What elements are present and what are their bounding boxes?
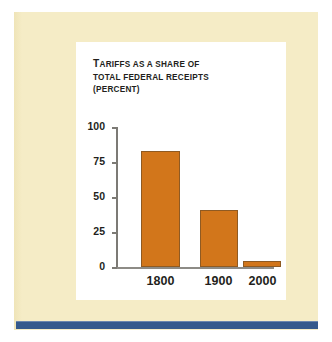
bar-1900[interactable] (200, 210, 238, 267)
chart-title-line-2: TOTAL FEDERAL RECEIPTS (93, 72, 273, 85)
x-axis-line (116, 267, 274, 269)
y-tick-0: 0 (112, 267, 117, 269)
y-tick-label-75: 75 (93, 155, 105, 167)
page-panel: TARIFFS AS A SHARE OF TOTAL FEDERAL RECE… (14, 12, 318, 330)
y-tick-label-25: 25 (93, 225, 105, 237)
y-tick-label-100: 100 (87, 120, 105, 132)
y-tick-label-50: 50 (93, 190, 105, 202)
chart-card: TARIFFS AS A SHARE OF TOTAL FEDERAL RECE… (76, 42, 286, 300)
x-label-2000: 2000 (235, 274, 290, 288)
bar-1800[interactable] (141, 151, 180, 267)
bar-2000[interactable] (243, 261, 281, 267)
chart-title-line-1: TARIFFS AS A SHARE OF (93, 58, 273, 72)
plot-area: 100 75 50 25 0 1800 1900 2000 (116, 127, 274, 267)
chart-title-line-3: (PERCENT) (93, 84, 273, 97)
blue-rule-divider (16, 321, 318, 329)
x-label-1800: 1800 (133, 274, 188, 288)
chart-title-line-1-rest: ARIFFS AS A SHARE OF (99, 60, 199, 69)
chart-title: TARIFFS AS A SHARE OF TOTAL FEDERAL RECE… (93, 58, 273, 97)
y-tick-100: 100 (112, 127, 117, 129)
y-tick-25: 25 (112, 232, 117, 234)
y-tick-50: 50 (112, 197, 117, 199)
y-tick-75: 75 (112, 162, 117, 164)
y-tick-label-0: 0 (99, 260, 105, 272)
